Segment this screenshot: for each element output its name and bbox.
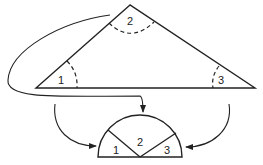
- semicircle: 1 2 3: [98, 115, 182, 157]
- angle-sum-diagram: 1 2 3 1 2 3: [0, 0, 263, 165]
- sector-2-label: 2: [137, 136, 143, 148]
- sector-3-label: 3: [164, 144, 170, 156]
- angle-1-arc: [67, 61, 77, 88]
- arrow-angle-2: [8, 15, 143, 112]
- sector-1-label: 1: [113, 144, 119, 156]
- angle-1-label: 1: [58, 74, 64, 86]
- sector-divider-right: [140, 133, 176, 157]
- angle-3-label: 3: [218, 74, 224, 86]
- angle-2-label: 2: [127, 15, 133, 27]
- triangle: 1 2 3: [36, 5, 255, 88]
- arrow-angle-1: [55, 104, 96, 146]
- arrow-angle-3: [186, 104, 229, 147]
